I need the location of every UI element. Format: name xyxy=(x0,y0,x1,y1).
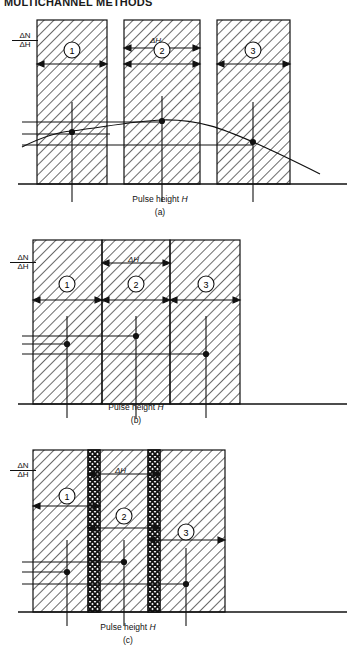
data-point-2 xyxy=(159,118,165,124)
x-axis-caption-c: Pulse height H xyxy=(48,622,208,632)
data-point-2 xyxy=(133,333,139,339)
y-axis-denominator: ΔH xyxy=(12,41,38,49)
band-marker-label-1: 1 xyxy=(64,280,69,290)
data-point-2 xyxy=(121,559,127,565)
x-axis-caption-b: Pulse height H xyxy=(56,402,216,412)
x-axis-label-prefix: Pulse height xyxy=(108,402,157,412)
figure-panel-a: ΔN ΔH ΔH 1 xyxy=(0,14,359,230)
x-axis-label-symbol: H xyxy=(182,194,188,204)
band-marker-label-1: 1 xyxy=(69,46,74,56)
x-axis-label-prefix: Pulse height xyxy=(100,622,149,632)
panel-caption-a: (a) xyxy=(80,207,240,217)
data-point-3 xyxy=(250,139,256,145)
panel-c-graphic: 1 2 3 xyxy=(0,444,359,640)
band-marker-label-3: 3 xyxy=(250,46,255,56)
delta-h-label-a: ΔH xyxy=(150,36,161,45)
band-marker-label-2: 2 xyxy=(133,280,138,290)
data-point-1 xyxy=(64,569,70,575)
data-point-3 xyxy=(203,351,209,357)
band-marker-label-1: 1 xyxy=(64,492,69,502)
delta-h-label-b: ΔH xyxy=(128,255,139,264)
data-point-1 xyxy=(69,129,75,135)
x-axis-caption-a: Pulse height H xyxy=(80,194,240,204)
y-axis-denominator: ΔH xyxy=(10,263,36,271)
y-axis-denominator: ΔH xyxy=(10,471,36,479)
x-axis-label-symbol: H xyxy=(158,402,164,412)
band-marker-label-2: 2 xyxy=(159,46,164,56)
band-marker-label-2: 2 xyxy=(121,512,126,522)
panel-caption-b: (b) xyxy=(56,415,216,425)
delta-h-label-c: ΔH xyxy=(115,466,126,475)
x-axis-label-prefix: Pulse height xyxy=(132,194,181,204)
panel-caption-c: (c) xyxy=(48,635,208,645)
band-marker-label-3: 3 xyxy=(203,280,208,290)
data-point-3 xyxy=(183,581,189,587)
figure-panel-b: ΔN ΔH ΔH 1 2 xyxy=(0,236,359,430)
y-axis-label-a: ΔN ΔH xyxy=(12,32,38,50)
panel-b-graphic: 1 2 3 xyxy=(0,236,359,416)
y-axis-label-b: ΔN ΔH xyxy=(10,254,36,272)
band-rect-3 xyxy=(170,240,240,404)
y-axis-label-c: ΔN ΔH xyxy=(10,462,36,480)
x-axis-label-symbol: H xyxy=(150,622,156,632)
figure-panel-c: ΔN ΔH ΔH xyxy=(0,444,359,672)
band-marker-label-3: 3 xyxy=(183,528,188,538)
page-header: MULTICHANNEL METHODS xyxy=(4,0,152,8)
data-point-1 xyxy=(64,341,70,347)
panel-a-graphic: 1 2 3 xyxy=(0,14,359,214)
